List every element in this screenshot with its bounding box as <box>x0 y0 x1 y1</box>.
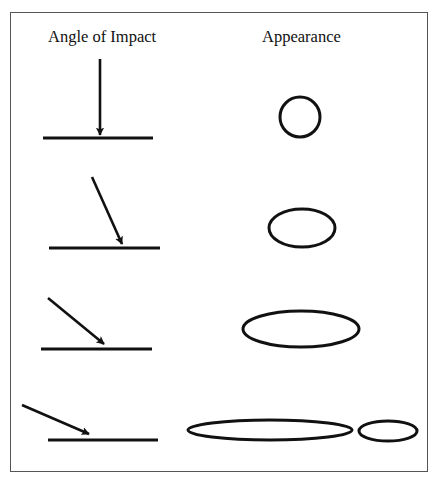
stain-shape <box>359 421 417 441</box>
impact-diagram <box>0 0 439 486</box>
impact-row-4 <box>22 405 417 441</box>
stain-shape <box>269 209 335 247</box>
impact-row-1 <box>43 59 320 138</box>
impact-arrow-icon <box>48 298 104 344</box>
impact-row-3 <box>41 298 359 349</box>
impact-arrow-icon <box>22 405 89 434</box>
stain-shape <box>188 420 352 440</box>
impact-arrow-icon <box>92 177 122 244</box>
impact-row-2 <box>49 177 335 248</box>
stain-shape <box>280 97 320 137</box>
rows-layer <box>22 59 417 441</box>
stain-shape <box>243 311 359 347</box>
